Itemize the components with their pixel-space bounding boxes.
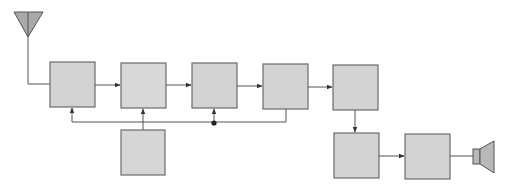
antenna-icon [14, 12, 43, 37]
speaker-icon [473, 141, 494, 173]
block-7 [405, 134, 450, 179]
bus-line [72, 109, 286, 122]
block-5 [333, 65, 378, 110]
block-8 [121, 130, 165, 175]
block-diagram [0, 0, 507, 188]
block-4 [263, 64, 308, 109]
block-1 [50, 62, 95, 107]
block-3 [192, 63, 237, 108]
bus-junction-dot [211, 120, 216, 125]
antenna-to-block-1-line [28, 37, 50, 84]
block-2 [121, 63, 166, 108]
block-6 [334, 133, 379, 178]
